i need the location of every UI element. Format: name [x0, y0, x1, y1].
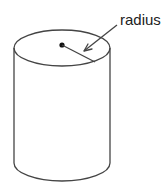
bottom-arc: [14, 163, 110, 181]
radius-arrow: [84, 25, 117, 51]
cylinder-diagram: radius: [0, 0, 167, 188]
cylinder: [14, 30, 110, 181]
top-face: [14, 30, 110, 66]
radius-label: radius: [120, 11, 161, 28]
radius-line: [62, 45, 95, 62]
